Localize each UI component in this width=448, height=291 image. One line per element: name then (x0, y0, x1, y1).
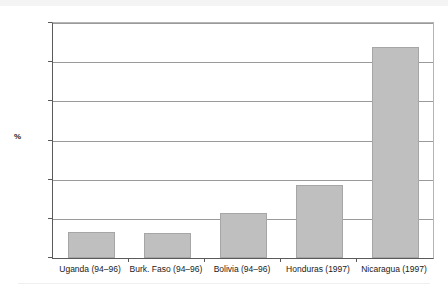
x-axis-category-label: Honduras (1997) (280, 264, 356, 274)
bar (296, 185, 343, 258)
bar (144, 233, 191, 258)
x-axis-category-label: Burk. Faso (94–96) (128, 264, 204, 274)
scan-artifact-top (0, 0, 448, 6)
gridline-300 (53, 23, 433, 24)
plot-area (52, 22, 434, 259)
x-axis-category-label: Nicaragua (1997) (356, 264, 432, 274)
x-axis-category-label: Uganda (94–96) (52, 264, 128, 274)
bar (372, 47, 419, 259)
x-axis-category-label: Bolivia (94–96) (204, 264, 280, 274)
scan-artifact-bottom-line (18, 283, 430, 284)
bar (220, 213, 267, 258)
bar-chart-figure: % 050100150200250300 Uganda (94–96)Burk.… (0, 0, 448, 291)
bar (68, 232, 115, 258)
y-axis-title: % (14, 133, 21, 141)
